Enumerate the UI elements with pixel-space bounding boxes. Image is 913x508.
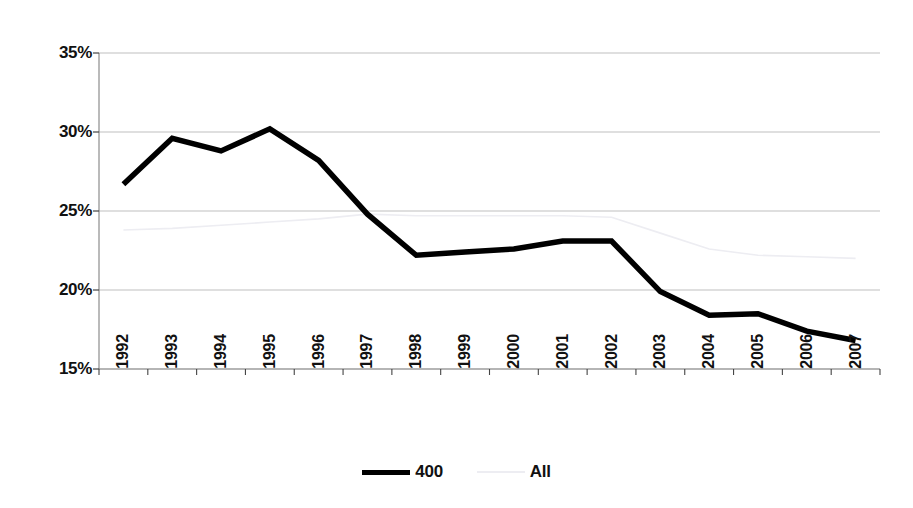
legend-label-all: All (530, 462, 551, 482)
x-axis-label: 2000 (503, 376, 525, 440)
x-axis-label: 1996 (308, 376, 330, 440)
chart-container: 35%30%25%20%15% 199219931994199519961997… (0, 0, 913, 508)
x-axis-label: 2001 (552, 376, 574, 440)
x-axis-label: 2005 (747, 376, 769, 440)
chart-legend: 400 All (0, 455, 913, 489)
x-axis-label: 1995 (259, 376, 281, 440)
y-axis-label: 20% (59, 280, 92, 300)
y-tick-marks-group (93, 53, 99, 369)
data-series-group (123, 129, 855, 341)
series-line-400 (123, 129, 855, 341)
x-axis-label: 2007 (845, 376, 867, 440)
x-axis-labels: 1992199319941995199619971998199920002001… (0, 376, 913, 446)
legend-line-all-icon (477, 471, 525, 473)
x-axis-label: 2004 (698, 376, 720, 440)
y-axis-label: 30% (59, 122, 92, 142)
x-axis-label: 1992 (112, 376, 134, 440)
x-axis-label: 1998 (405, 376, 427, 440)
legend-item-all[interactable]: All (477, 462, 551, 482)
y-axis-label: 25% (59, 201, 92, 221)
x-axis-label: 1993 (161, 376, 183, 440)
legend-item-400[interactable]: 400 (362, 462, 442, 482)
gridlines-group (99, 53, 880, 369)
x-axis-label: 1997 (356, 376, 378, 440)
x-axis-label: 1999 (454, 376, 476, 440)
y-axis-label: 35% (59, 43, 92, 63)
legend-line-400-icon (362, 470, 410, 475)
x-axis-label: 1994 (210, 376, 232, 440)
legend-label-400: 400 (415, 462, 442, 482)
x-axis-label: 2003 (649, 376, 671, 440)
x-axis-label: 2002 (601, 376, 623, 440)
x-axis-label: 2006 (796, 376, 818, 440)
